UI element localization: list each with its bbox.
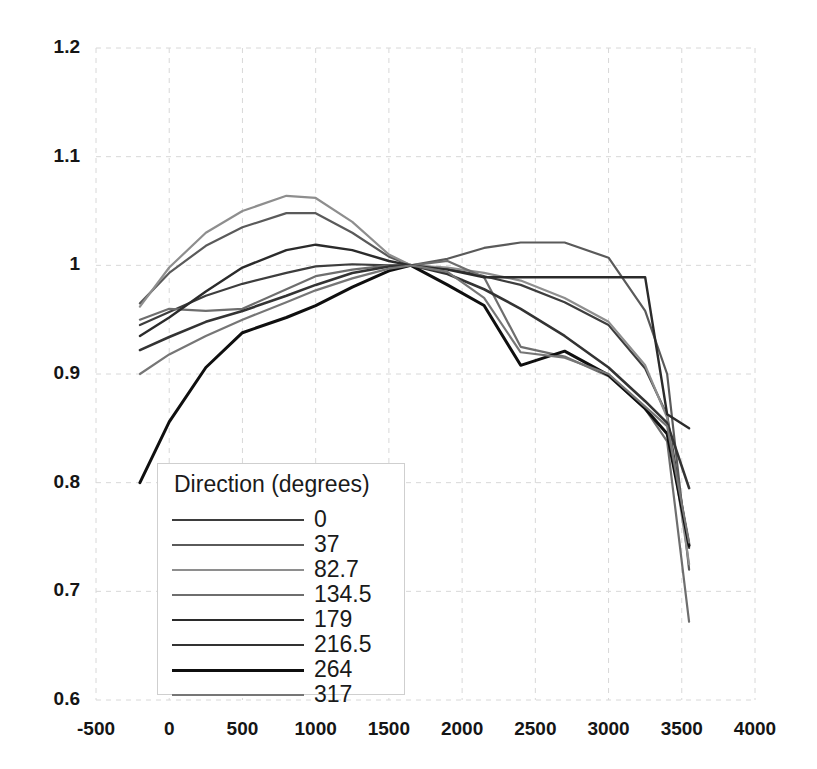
chart-container: 1.21.110.90.80.70.6 -5000500100015002000… bbox=[0, 0, 817, 769]
y-axis-tick-label: 1.2 bbox=[20, 36, 80, 58]
legend-item-317[interactable]: 317 bbox=[172, 683, 398, 706]
legend-swatch-line bbox=[172, 594, 304, 596]
legend-swatch-line bbox=[172, 544, 304, 546]
legend-swatch-line bbox=[172, 644, 304, 646]
legend-item-label: 179 bbox=[314, 606, 352, 633]
legend-item-179[interactable]: 179 bbox=[172, 608, 398, 631]
legend-item-label: 264 bbox=[314, 656, 352, 683]
y-axis-tick-label: 1 bbox=[20, 253, 80, 275]
legend-swatch-line bbox=[172, 694, 304, 696]
legend-item-label: 37 bbox=[314, 531, 340, 558]
y-axis-tick-label: 0.9 bbox=[20, 362, 80, 384]
line-chart-plot bbox=[0, 0, 817, 769]
legend-item-82-7[interactable]: 82.7 bbox=[172, 558, 398, 581]
y-axis-tick-label: 0.8 bbox=[20, 471, 80, 493]
chart-legend: Direction (degrees) 03782.7134.5179216.5… bbox=[157, 463, 405, 695]
legend-item-264[interactable]: 264 bbox=[172, 658, 398, 681]
y-axis-tick-label: 0.7 bbox=[20, 579, 80, 601]
legend-item-134-5[interactable]: 134.5 bbox=[172, 583, 398, 606]
series-line-216-5 bbox=[140, 265, 689, 488]
legend-title: Direction (degrees) bbox=[174, 471, 370, 498]
legend-swatch-line bbox=[172, 669, 304, 672]
y-axis-tick-label: 1.1 bbox=[20, 145, 80, 167]
legend-swatch-line bbox=[172, 619, 304, 621]
legend-item-label: 0 bbox=[314, 506, 327, 533]
legend-item-label: 317 bbox=[314, 681, 352, 708]
legend-swatch-line bbox=[172, 519, 304, 521]
legend-item-label: 134.5 bbox=[314, 581, 372, 608]
legend-item-216-5[interactable]: 216.5 bbox=[172, 633, 398, 656]
legend-item-label: 82.7 bbox=[314, 556, 359, 583]
legend-item-label: 216.5 bbox=[314, 631, 372, 658]
y-axis-tick-label: 0.6 bbox=[20, 688, 80, 710]
series-line-179 bbox=[140, 245, 689, 429]
legend-swatch-line bbox=[172, 569, 304, 571]
legend-item-37[interactable]: 37 bbox=[172, 533, 398, 556]
x-axis-tick-label: 4000 bbox=[710, 718, 800, 740]
legend-item-0[interactable]: 0 bbox=[172, 508, 398, 531]
